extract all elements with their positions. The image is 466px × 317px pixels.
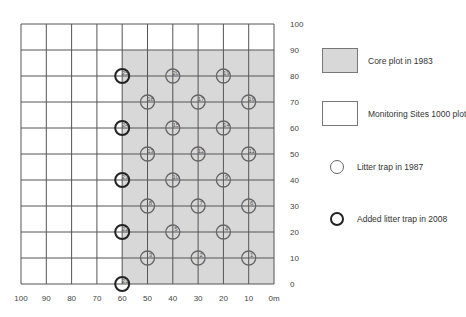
trap-1987-circle-icon	[330, 160, 344, 174]
legend-trap-2008-label: Added litter trap in 2008	[357, 214, 447, 224]
x-tick-label: 0m	[268, 294, 279, 303]
plot-map: 1009080706050403020100m 1009080706050403…	[0, 0, 320, 317]
trap-id-label: 24	[122, 122, 129, 128]
y-axis-ticks: 1009080706050403020100	[290, 20, 304, 289]
y-tick-label: 70	[290, 98, 299, 107]
trap-id-label: 13	[147, 148, 154, 154]
y-tick-label: 90	[290, 46, 299, 55]
trap-2008-circle-icon	[330, 212, 344, 226]
trap-id-label: 17	[198, 96, 205, 102]
y-tick-label: 10	[290, 254, 299, 263]
legend-trap-1987-label: Litter trap in 1987	[357, 162, 423, 172]
monitoring-plot-swatch	[322, 101, 358, 126]
trap-id-label: 11	[249, 148, 256, 154]
trap-id-label: 15	[172, 122, 179, 128]
y-tick-label: 40	[290, 176, 299, 185]
x-tick-label: 30	[194, 294, 203, 303]
x-tick-label: 20	[219, 294, 228, 303]
x-tick-label: 50	[143, 294, 152, 303]
y-tick-label: 30	[290, 202, 299, 211]
y-tick-label: 20	[290, 228, 299, 237]
trap-id-label: 23	[122, 174, 129, 180]
trap-id-label: 14	[223, 122, 230, 128]
trap-id-label: 16	[248, 96, 255, 102]
y-tick-label: 60	[290, 124, 299, 133]
trap-id-label: 21	[122, 278, 129, 284]
y-tick-label: 50	[290, 150, 299, 159]
trap-id-label: 12	[198, 148, 205, 154]
y-tick-label: 80	[290, 72, 299, 81]
x-tick-label: 40	[168, 294, 177, 303]
trap-id-label: 22	[122, 226, 129, 232]
legend-monitoring-plot: Monitoring Sites 1000 plot	[322, 101, 466, 126]
y-tick-label: 100	[290, 20, 304, 29]
trap-id-label: 19	[223, 70, 230, 76]
x-tick-label: 100	[14, 294, 28, 303]
legend-trap-1987: Litter trap in 1987	[322, 160, 423, 174]
trap-id-label: 10	[172, 174, 179, 180]
x-tick-label: 70	[92, 294, 101, 303]
legend-core-plot-label: Core plot in 1983	[368, 56, 433, 66]
x-tick-label: 80	[67, 294, 76, 303]
legend-trap-2008: Added litter trap in 2008	[322, 212, 447, 226]
legend-monitoring-plot-label: Monitoring Sites 1000 plot	[368, 109, 466, 119]
core-plot-swatch	[322, 48, 358, 73]
legend-core-plot: Core plot in 1983	[322, 48, 433, 73]
trap-id-label: 18	[147, 96, 154, 102]
x-tick-label: 10	[244, 294, 253, 303]
x-axis-ticks: 1009080706050403020100m	[14, 294, 280, 303]
x-tick-label: 90	[42, 294, 51, 303]
trap-id-label: 20	[172, 70, 179, 76]
y-tick-label: 0	[290, 280, 295, 289]
x-tick-label: 60	[118, 294, 127, 303]
trap-id-label: 25	[122, 70, 129, 76]
